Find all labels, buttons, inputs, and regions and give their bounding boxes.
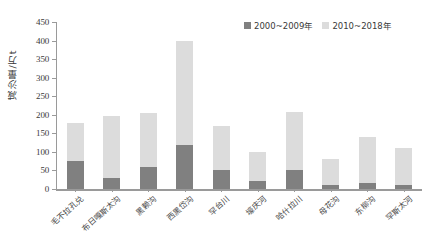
legend-label-late: 2010~2018年 [332, 19, 391, 31]
legend-swatch-late [322, 22, 329, 29]
x-axis-label: 西黑岱沟 [164, 193, 195, 223]
stacked-bar-chart: 减沙量/万t 050100150200250300350400450 毛不拉孔兑… [0, 0, 432, 249]
legend-swatch-early [244, 22, 251, 29]
x-axis-label: 东柳沟 [352, 193, 377, 217]
legend-item-early: 2000~2009年 [244, 19, 313, 31]
legend-label-early: 2000~2009年 [254, 19, 313, 31]
x-axis-label: 罕斯太河 [383, 193, 414, 223]
chart-legend: 2000~2009年 2010~2018年 [244, 19, 392, 31]
x-axis-label: 哈什拉川 [273, 193, 304, 223]
x-axis-label: 母花沟 [316, 193, 341, 217]
x-axis-label: 黑赖沟 [133, 193, 158, 217]
x-axis-label: 罕台川 [206, 193, 231, 217]
x-axis-label: 布日嘎斯太沟 [79, 193, 122, 233]
legend-item-late: 2010~2018年 [322, 19, 391, 31]
x-axis-labels: 毛不拉孔兑布日嘎斯太沟黑赖沟西黑岱沟罕台川壕庆河哈什拉川母花沟东柳沟罕斯太河 [0, 0, 432, 249]
x-axis-label: 壕庆河 [243, 193, 268, 217]
